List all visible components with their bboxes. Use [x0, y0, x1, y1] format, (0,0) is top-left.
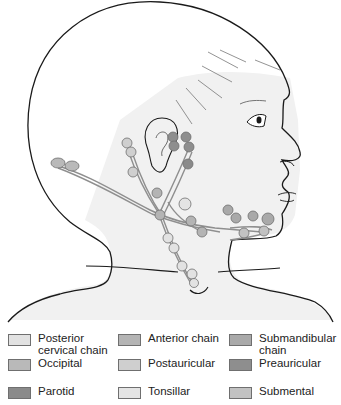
- legend-label: Anterior chain: [148, 332, 219, 344]
- nodes-parotid: [183, 159, 193, 169]
- legend-label: Occipital: [38, 357, 82, 369]
- legend-item-postauricular: Postauricular: [118, 357, 215, 371]
- legend-item-submandibular-chain: Submandibular chain: [229, 332, 336, 356]
- swatch-anterior-chain: [118, 334, 141, 346]
- swatch-submandibular-chain: [229, 334, 252, 346]
- swatch-posterior-cervical-chain: [8, 334, 31, 346]
- legend-label: Postauricular: [148, 357, 215, 369]
- swatch-submental: [229, 387, 252, 399]
- legend-item-occipital: Occipital: [8, 357, 82, 371]
- legend-label: Parotid: [38, 385, 74, 397]
- head-neck-illustration: [0, 0, 341, 325]
- legend-item-preauricular: Preauricular: [229, 357, 321, 371]
- legend-label: Tonsillar: [148, 385, 190, 397]
- legend-label: Posterior cervical chain: [38, 332, 108, 356]
- legend-item-submental: Submental: [229, 385, 314, 399]
- nodes-occipital: [51, 158, 79, 171]
- legend-item-tonsillar: Tonsillar: [118, 385, 190, 399]
- swatch-postauricular: [118, 359, 141, 371]
- legend-label: Preauricular: [259, 357, 321, 369]
- eye-pupil: [257, 116, 262, 123]
- swatch-parotid: [8, 387, 31, 399]
- legend-label: Submental: [259, 385, 314, 397]
- swatch-tonsillar: [118, 387, 141, 399]
- legend: Posterior cervical chain Anterior chain …: [0, 330, 341, 400]
- legend-label: Submandibular chain: [259, 332, 336, 356]
- nodes-tonsillar: [179, 198, 191, 210]
- legend-item-parotid: Parotid: [8, 385, 74, 399]
- legend-item-anterior-chain: Anterior chain: [118, 332, 219, 346]
- swatch-preauricular: [229, 359, 252, 371]
- legend-item-posterior-cervical-chain: Posterior cervical chain: [8, 332, 108, 356]
- swatch-occipital: [8, 359, 31, 371]
